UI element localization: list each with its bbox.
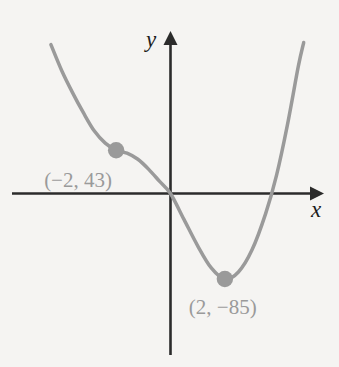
x-axis-label: x: [311, 198, 321, 221]
local-minimum-marker: [217, 271, 233, 287]
graph-figure: y x (−2, 43) (2, −85): [0, 0, 339, 367]
y-axis-arrowhead-icon: [164, 31, 178, 45]
axes-group: [12, 31, 324, 355]
curve-group: [51, 43, 304, 280]
local-minimum-label: (2, −85): [189, 297, 257, 318]
cubic-curve-path: [51, 43, 304, 280]
saddle-point-label: (−2, 43): [44, 170, 112, 191]
saddle-point-marker: [108, 142, 124, 158]
y-axis-label: y: [146, 28, 156, 51]
